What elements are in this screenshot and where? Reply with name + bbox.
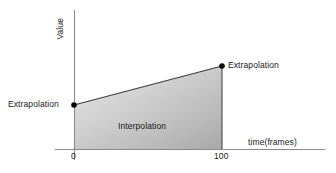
x-axis-label: time(frames) [248, 138, 297, 147]
diagram-svg [0, 0, 336, 173]
x-axis-tick-label-0: 0 [71, 152, 76, 161]
data-point-marker-left [71, 102, 77, 108]
annotation-extrapolation-left: Extrapolation [8, 100, 59, 109]
annotation-extrapolation-right: Extrapolation [228, 61, 279, 70]
x-axis-tick-label-100: 100 [214, 152, 228, 161]
data-point-marker-right [219, 63, 225, 69]
annotation-interpolation: Interpolation [118, 122, 166, 131]
interpolation-region [74, 66, 222, 149]
figure-canvas: Value Extrapolation Extrapolation Interp… [0, 0, 336, 173]
y-axis-label: Value [56, 18, 65, 40]
